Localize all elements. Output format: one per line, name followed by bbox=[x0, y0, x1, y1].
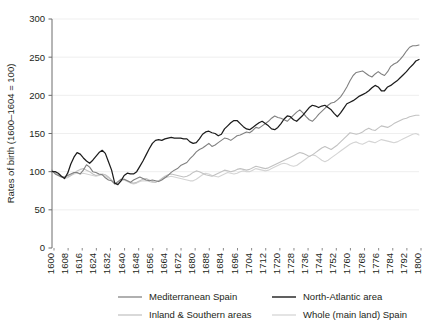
x-tick-label: 1664 bbox=[158, 253, 169, 274]
x-tick-label: 1760 bbox=[341, 253, 352, 274]
x-tick-label: 1792 bbox=[398, 253, 409, 274]
x-tick-label: 1624 bbox=[87, 253, 98, 274]
legend-label: Mediterranean Spain bbox=[149, 291, 237, 302]
x-tick-label: 1720 bbox=[271, 253, 282, 274]
x-tick-label: 1728 bbox=[285, 253, 296, 274]
x-tick-label: 1672 bbox=[172, 253, 183, 274]
x-tick-label: 1632 bbox=[101, 253, 112, 274]
x-tick-label: 1616 bbox=[73, 253, 84, 274]
y-tick-label: 200 bbox=[29, 90, 45, 101]
x-tick-label: 1784 bbox=[384, 253, 395, 274]
x-tick-label: 1736 bbox=[299, 253, 310, 274]
x-tick-label: 1640 bbox=[116, 253, 127, 274]
x-tick-label: 1688 bbox=[200, 253, 211, 274]
x-tick-label: 1712 bbox=[257, 253, 268, 274]
x-tick-label: 1648 bbox=[130, 253, 141, 274]
x-tick-label: 1600 bbox=[45, 253, 56, 274]
y-tick-label: 0 bbox=[40, 242, 45, 253]
x-tick-label: 1800 bbox=[412, 253, 423, 274]
legend-label: North-Atlantic area bbox=[303, 291, 383, 302]
legend-label: Inland & Southern areas bbox=[149, 309, 252, 320]
x-tick-label: 1704 bbox=[243, 253, 254, 274]
x-tick-label: 1696 bbox=[229, 253, 240, 274]
x-tick-label: 1744 bbox=[313, 253, 324, 274]
y-axis-title: Rates of birth (1600–1604 = 100) bbox=[5, 64, 16, 204]
x-tick-label: 1684 bbox=[214, 253, 225, 274]
x-tick-label: 1680 bbox=[186, 253, 197, 274]
x-tick-label: 1608 bbox=[59, 253, 70, 274]
x-tick-label: 1768 bbox=[356, 253, 367, 274]
series-line-1 bbox=[52, 59, 419, 184]
birth-rates-line-chart: 050100150200250300Rates of birth (1600–1… bbox=[0, 0, 426, 329]
legend-label: Whole (main land) Spain bbox=[303, 309, 407, 320]
y-tick-label: 300 bbox=[29, 13, 45, 24]
y-tick-label: 100 bbox=[29, 166, 45, 177]
x-tick-label: 1776 bbox=[370, 253, 381, 274]
x-tick-label: 1656 bbox=[144, 253, 155, 274]
y-tick-label: 250 bbox=[29, 52, 45, 63]
y-tick-label: 150 bbox=[29, 128, 45, 139]
y-tick-label: 50 bbox=[34, 204, 45, 215]
chart-canvas: 050100150200250300Rates of birth (1600–1… bbox=[0, 0, 426, 329]
x-tick-label: 1752 bbox=[327, 253, 338, 274]
series-line-0 bbox=[52, 45, 419, 184]
